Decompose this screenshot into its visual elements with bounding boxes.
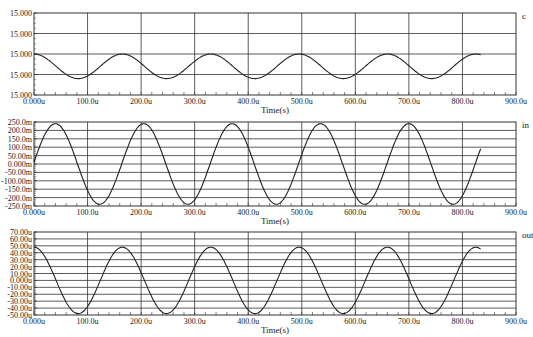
x-tick-label: 200.0u <box>130 97 152 106</box>
x-tick-label: 500.0u <box>291 208 313 217</box>
x-tick-label: 800.0u <box>451 97 473 106</box>
signal-label-out: out <box>522 230 533 240</box>
x-tick-label: 300.0u <box>184 97 206 106</box>
x-tick-label: 600.0u <box>344 97 366 106</box>
x-tick-label: 600.0u <box>344 208 366 217</box>
x-tick-label: 700.0u <box>398 317 420 326</box>
x-tick-label: 500.0u <box>291 317 313 326</box>
x-tick-label: 800.0u <box>451 208 473 217</box>
x-tick-label: 900.0u <box>505 97 527 106</box>
x-tick-label: 900.0u <box>505 208 527 217</box>
x-tick-label: 600.0u <box>344 317 366 326</box>
x-tick-label: 200.0u <box>130 317 152 326</box>
waveform-chart: 15.00015.00015.00015.00015.0000.000u100.… <box>0 0 533 337</box>
x-tick-label: 400.0u <box>237 97 259 106</box>
x-tick-label: 100.0u <box>77 317 99 326</box>
x-axis-label: Time(s) <box>261 216 289 226</box>
plot-out: 70.00u60.00u50.00u40.00u30.00u20.00u10.0… <box>7 228 533 335</box>
x-tick-label: 100.0u <box>77 97 99 106</box>
x-axis-label: Time(s) <box>261 105 289 115</box>
y-tick-label: 15.000 <box>10 50 32 59</box>
y-tick-label: 15.000 <box>10 9 32 18</box>
x-tick-label: 700.0u <box>398 97 420 106</box>
y-tick-label: 15.000 <box>10 71 32 80</box>
x-tick-label: 700.0u <box>398 208 420 217</box>
x-tick-label: 0.000u <box>23 317 45 326</box>
signal-label-in: in <box>522 120 530 130</box>
x-tick-label: 0.000u <box>23 208 45 217</box>
x-tick-label: 200.0u <box>130 208 152 217</box>
x-tick-label: 300.0u <box>184 208 206 217</box>
plot-c: 15.00015.00015.00015.00015.0000.000u100.… <box>10 9 527 115</box>
y-tick-label: 15.000 <box>10 30 32 39</box>
x-tick-label: 500.0u <box>291 97 313 106</box>
x-tick-label: 400.0u <box>237 317 259 326</box>
x-tick-label: 800.0u <box>451 317 473 326</box>
x-tick-label: 900.0u <box>505 317 527 326</box>
x-tick-label: 300.0u <box>184 317 206 326</box>
waveform-c <box>34 54 481 79</box>
x-tick-label: 100.0u <box>77 208 99 217</box>
x-axis-label: Time(s) <box>261 325 289 335</box>
x-tick-label: 400.0u <box>237 208 259 217</box>
signal-label-c: c <box>522 11 526 21</box>
plot-in: 250.0m200.0m150.0m100.0m50.00m0.000m-50.… <box>1 118 529 226</box>
x-tick-label: 0.000u <box>23 97 45 106</box>
